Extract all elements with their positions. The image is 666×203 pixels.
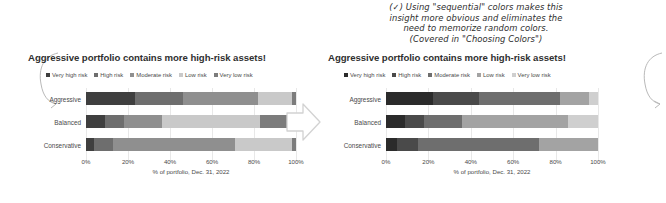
bar-row-aggressive[interactable]: Aggressive [86, 92, 296, 105]
bar-segment[interactable] [418, 138, 539, 151]
bar-segment[interactable] [424, 115, 462, 128]
right-x-axis: 0%20%40%60%80%100% [386, 158, 598, 168]
legend-swatch-icon [428, 73, 432, 77]
bar-segment[interactable] [86, 115, 105, 128]
left-chart-title: Aggressive portfolio contains more high-… [28, 52, 266, 63]
x-axis-tick-label: 60% [206, 158, 218, 165]
legend-item-high-risk: High risk [94, 72, 123, 78]
bar-segment[interactable] [397, 138, 418, 151]
bar-segment[interactable] [162, 115, 260, 128]
legend-swatch-icon [512, 73, 516, 77]
bar-segment[interactable] [86, 92, 135, 105]
legend-swatch-icon [392, 73, 396, 77]
bar-segment[interactable] [386, 138, 397, 151]
legend-label: High risk [100, 72, 123, 78]
x-axis-tick-label: 80% [549, 158, 561, 165]
legend-swatch-icon [477, 73, 481, 77]
bar-row-aggressive[interactable]: Aggressive [386, 92, 598, 105]
legend-item-very-low-risk: Very low risk [512, 72, 551, 78]
bar-row-balanced[interactable]: Balanced [386, 115, 598, 128]
bar-segment[interactable] [386, 92, 433, 105]
legend-label: Very high risk [52, 72, 87, 78]
bar-segment[interactable] [479, 92, 560, 105]
bar-segment[interactable] [235, 138, 292, 151]
legend-item-very-high-risk: Very high risk [344, 72, 385, 78]
x-axis-tick-label: 20% [122, 158, 134, 165]
legend-swatch-icon [214, 73, 218, 77]
legend-swatch-icon [130, 73, 134, 77]
bar-segment[interactable] [560, 92, 590, 105]
category-label: Conservative [44, 141, 81, 148]
stacked-bar[interactable] [86, 138, 296, 151]
x-axis-tick-label: 40% [164, 158, 176, 165]
x-axis-tick-label: 40% [465, 158, 477, 165]
right-chart-panel: Aggressive portfolio contains more high-… [320, 0, 602, 203]
left-chart-legend: Very high risk High risk Moderate risk L… [46, 72, 253, 78]
x-axis-tick-label: 0% [382, 158, 391, 165]
x-axis-tick-label: 100% [590, 158, 606, 165]
stacked-bar[interactable] [386, 92, 598, 105]
legend-swatch-icon [94, 73, 98, 77]
right-chart-legend: Very high risk High risk Moderate risk L… [344, 72, 551, 78]
bar-segment[interactable] [462, 115, 568, 128]
category-label: Aggressive [49, 95, 81, 102]
x-axis-tick-label: 60% [507, 158, 519, 165]
callout-arrow-icon [640, 50, 666, 112]
bar-segment[interactable] [94, 138, 113, 151]
right-x-axis-title: % of portfolio, Dec. 31, 2022 [386, 168, 598, 175]
stacked-bar[interactable] [86, 115, 296, 128]
bar-segment[interactable] [589, 92, 597, 105]
legend-item-moderate-risk: Moderate risk [130, 72, 172, 78]
legend-label: Moderate risk [136, 72, 172, 78]
bar-segment[interactable] [113, 138, 235, 151]
bar-segment[interactable] [433, 92, 480, 105]
left-chart-panel: Aggressive portfolio contains more high-… [18, 0, 300, 203]
x-axis-tick-label: 20% [422, 158, 434, 165]
legend-item-high-risk: High risk [392, 72, 421, 78]
bar-row-balanced[interactable]: Balanced [86, 115, 296, 128]
legend-label: Low risk [185, 72, 207, 78]
category-label: Balanced [54, 118, 81, 125]
legend-item-low-risk: Low risk [477, 72, 505, 78]
category-label: Conservative [344, 141, 381, 148]
bar-row-conservative[interactable]: Conservative [86, 138, 296, 151]
left-x-axis-title: % of portfolio, Dec. 31, 2022 [86, 168, 296, 175]
legend-label: Very low risk [220, 72, 253, 78]
bar-segment[interactable] [105, 115, 124, 128]
bar-segment[interactable] [135, 92, 184, 105]
category-label: Aggressive [349, 95, 381, 102]
legend-label: Very high risk [350, 72, 385, 78]
bar-segment[interactable] [183, 92, 258, 105]
legend-item-moderate-risk: Moderate risk [428, 72, 470, 78]
x-axis-tick-label: 0% [82, 158, 91, 165]
left-x-axis: 0%20%40%60%80%100% [86, 158, 296, 168]
legend-item-very-low-risk: Very low risk [214, 72, 253, 78]
legend-label: Low risk [483, 72, 505, 78]
legend-label: Moderate risk [434, 72, 470, 78]
category-label: Balanced [354, 118, 381, 125]
transition-arrow-icon [286, 101, 322, 143]
bar-segment[interactable] [86, 138, 94, 151]
legend-swatch-icon [46, 73, 50, 77]
legend-swatch-icon [344, 73, 348, 77]
stacked-bar[interactable] [86, 92, 296, 105]
legend-label: High risk [398, 72, 421, 78]
bar-segment[interactable] [386, 115, 405, 128]
legend-item-very-high-risk: Very high risk [46, 72, 87, 78]
bar-row-conservative[interactable]: Conservative [386, 138, 598, 151]
right-plot-area: Aggressive Balanced Conservative 0%20%40… [386, 88, 598, 162]
bar-segment[interactable] [124, 115, 162, 128]
bar-segment[interactable] [568, 115, 598, 128]
stacked-bar[interactable] [386, 115, 598, 128]
bar-segment[interactable] [405, 115, 424, 128]
legend-item-low-risk: Low risk [179, 72, 207, 78]
x-axis-tick-label: 80% [248, 158, 260, 165]
gridline [598, 88, 599, 162]
stacked-bar[interactable] [386, 138, 598, 151]
left-plot-area: Aggressive Balanced Conservative 0%20%40… [86, 88, 296, 162]
x-axis-tick-label: 100% [288, 158, 304, 165]
legend-label: Very low risk [518, 72, 551, 78]
legend-swatch-icon [179, 73, 183, 77]
right-chart-title: Aggressive portfolio contains more high-… [328, 52, 566, 63]
bar-segment[interactable] [539, 138, 598, 151]
